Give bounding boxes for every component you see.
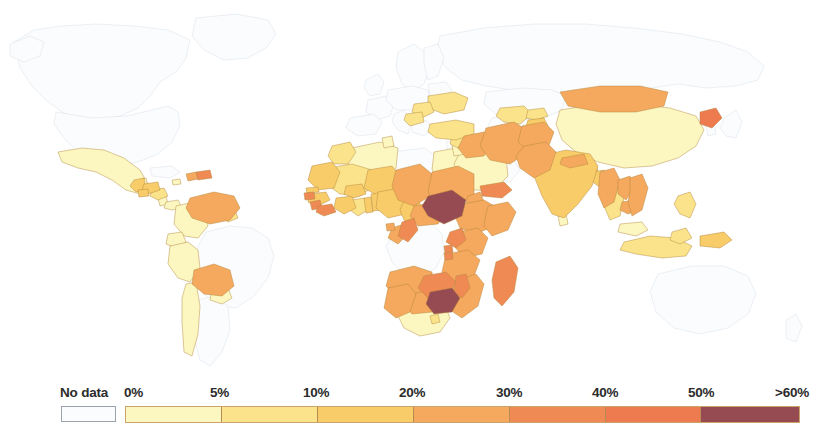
country-greenland [192,14,276,60]
country-papua-new-guinea [700,232,732,248]
legend-bin-0-5 [126,407,222,422]
legend-tick-0: 0% [124,385,143,400]
legend-bin-30-40 [510,407,606,422]
legend-tick-1: 5% [210,385,229,400]
legend-color-bar [125,406,800,423]
country-australia [650,266,756,334]
bin-40-50-countries [700,108,722,128]
country-liberia [316,204,336,216]
legend-tick-7: >60% [775,385,809,400]
country-japan [720,110,742,138]
legend-nodata-label: No data [60,385,108,400]
legend-swatches [0,406,818,423]
country-ukraine [428,92,468,114]
country-tunisia [382,136,394,148]
country-burundi [444,252,453,260]
country-madagascar [492,256,518,306]
country-equatorial-guinea [386,223,395,231]
legend-tick-4: 30% [496,385,522,400]
legend-bin-40-50 [606,407,702,422]
country-cuba [150,166,180,178]
legend: No data 0% 5% 10% 20% 30% 40% 50% >60% [0,385,818,433]
legend-bin-5-10 [222,407,319,422]
country-spain-portugal [346,114,382,136]
world-map-svg [0,0,818,385]
choropleth-figure: No data 0% 5% 10% 20% 30% 40% 50% >60% [0,0,818,433]
country-somalia [484,202,516,236]
world-map [0,0,818,385]
country-el-salvador [138,189,149,197]
legend-bin-10-20 [318,407,414,422]
country-russia [436,24,764,96]
country-kyrgyzstan [526,108,548,120]
country-new-zealand [786,314,802,342]
country-dominican-republic [196,170,212,180]
country-philippines [674,192,696,218]
country-malaysia [618,222,648,236]
legend-tick-2: 10% [303,385,329,400]
country-jamaica [172,179,181,185]
legend-tick-labels: No data 0% 5% 10% 20% 30% 40% 50% >60% [0,385,818,405]
country-north-korea [700,108,722,128]
country-lesotho [430,314,440,324]
country-vietnam [628,174,648,216]
country-guinea-bissau [304,192,315,200]
country-burkina-faso [344,184,366,198]
country-rwanda [444,245,453,253]
legend-bin-over-60 [701,407,799,422]
country-uk-ireland [364,74,384,96]
legend-bin-20-30 [414,407,510,422]
legend-tick-5: 40% [592,385,618,400]
legend-tick-6: 50% [688,385,714,400]
legend-nodata-swatch [61,406,116,422]
legend-tick-3: 20% [399,385,425,400]
